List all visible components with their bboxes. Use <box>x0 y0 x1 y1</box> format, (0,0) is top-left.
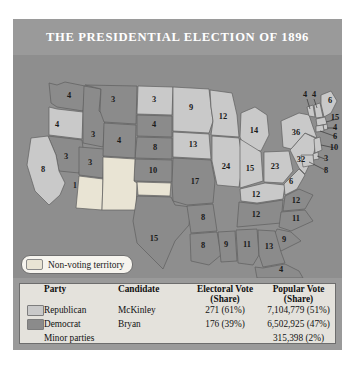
map-label-la: 8 <box>201 242 205 250</box>
row-swatch-minor <box>20 333 44 344</box>
map-label-ia: 13 <box>189 141 197 149</box>
header-electoral-vote: Electoral Vote (Share) <box>188 284 262 305</box>
map-label-fl: 4 <box>279 266 283 274</box>
map-label-me: 6 <box>328 97 332 105</box>
map-label-tn: 12 <box>252 211 260 219</box>
results-table: Party Candidate Electoral Vote (Share) P… <box>20 284 335 344</box>
header-party: Party <box>44 284 118 305</box>
row-popular-minor: 315,398 (2%) <box>262 333 335 344</box>
map-label-sd: 4 <box>152 121 156 129</box>
table-row: Republican McKinley 271 (61%) 7,104,779 … <box>20 305 335 319</box>
figure-title-bar: THE PRESIDENTIAL ELECTION OF 1896 <box>13 19 342 55</box>
republican-color-swatch <box>27 305 44 316</box>
map-label-ne: 8 <box>153 144 157 152</box>
map-label-nd: 3 <box>152 96 156 104</box>
map-label-ca: 8 <box>41 166 45 174</box>
map-label-sc: 9 <box>282 236 286 244</box>
results-table-head: Party Candidate Electoral Vote (Share) P… <box>20 284 335 305</box>
row-electoral-minor <box>188 333 262 344</box>
map-label-de: 3 <box>324 155 328 163</box>
map-label-mn: 9 <box>189 104 193 112</box>
row-party-republican: Republican <box>44 305 118 319</box>
map-label-ct: 6 <box>333 133 337 141</box>
map-label-ms: 9 <box>224 241 228 249</box>
map-label-mt: 3 <box>111 96 115 104</box>
map-label-il: 24 <box>222 163 230 171</box>
territory-ok <box>137 182 171 196</box>
row-electoral-republican: 271 (61%) <box>188 305 262 319</box>
map-label-al: 11 <box>243 241 251 249</box>
map-label-in: 15 <box>246 165 254 173</box>
map-label-id: 3 <box>91 131 95 139</box>
header-popular-line2: (Share) <box>262 294 335 304</box>
map-label-tx: 15 <box>150 235 158 243</box>
map-label-mi: 14 <box>250 127 258 135</box>
election-map-figure: THE PRESIDENTIAL ELECTION OF 1896 .s{str… <box>13 19 342 350</box>
map-label-wa: 4 <box>67 92 71 100</box>
map-label-ny: 36 <box>292 129 300 137</box>
map-label-ut: 3 <box>88 159 92 167</box>
map-label-ma: 15 <box>331 114 339 122</box>
header-candidate: Candidate <box>118 284 188 305</box>
header-popular-line1: Popular Vote <box>262 284 335 294</box>
header-electoral-line2: (Share) <box>188 294 262 304</box>
row-electoral-democrat: 176 (39%) <box>188 319 262 333</box>
map-label-co: 4 <box>117 137 121 145</box>
header-popular-vote: Popular Vote (Share) <box>262 284 335 305</box>
results-panel: Party Candidate Electoral Vote (Share) P… <box>19 283 336 344</box>
territory-nm <box>102 157 137 210</box>
map-label-wi: 12 <box>219 113 227 121</box>
results-table-body: Republican McKinley 271 (61%) 7,104,779 … <box>20 305 335 344</box>
header-electoral-line1: Electoral Vote <box>188 284 262 294</box>
map-svg: .s{stroke:#5f5f5f;stroke-width:.7;} .rep… <box>13 55 342 278</box>
us-electoral-map: .s{stroke:#5f5f5f;stroke-width:.7;} .rep… <box>13 55 342 278</box>
row-candidate-bryan: Bryan <box>118 319 188 333</box>
map-label-nj: 10 <box>330 144 338 152</box>
map-label-oh: 23 <box>271 163 279 171</box>
map-label-az: 1 <box>73 182 77 190</box>
row-party-minor: Minor parties <box>44 333 188 344</box>
page-title: THE PRESIDENTIAL ELECTION OF 1896 <box>46 30 309 45</box>
row-swatch-republican <box>20 305 44 319</box>
map-label-nh: 4 <box>312 91 316 99</box>
non-voting-territory-legend: Non-voting territory <box>21 255 133 274</box>
row-candidate-mckinley: McKinley <box>118 305 188 319</box>
map-label-or: 4 <box>55 121 59 129</box>
row-popular-democrat: 6,502,925 (47%) <box>262 319 335 333</box>
table-row: Democrat Bryan 176 (39%) 6,502,925 (47%) <box>20 319 335 333</box>
map-label-pa: 32 <box>297 156 305 164</box>
row-party-democrat: Democrat <box>44 319 118 333</box>
map-label-vt: 4 <box>303 91 307 99</box>
democrat-color-swatch <box>27 319 44 330</box>
map-label-wv: 6 <box>289 178 293 186</box>
row-popular-republican: 7,104,779 (51%) <box>262 305 335 319</box>
map-label-va: 12 <box>292 197 300 205</box>
table-row: Minor parties 315,398 (2%) <box>20 333 335 344</box>
map-label-ky: 12 <box>252 191 260 199</box>
header-swatch-spacer <box>20 284 44 305</box>
row-swatch-democrat <box>20 319 44 333</box>
non-voting-label: Non-voting territory <box>48 260 124 270</box>
map-label-mo: 17 <box>191 178 199 186</box>
map-label-nv: 3 <box>64 153 68 161</box>
territory-az <box>76 176 103 210</box>
table-header-row: Party Candidate Electoral Vote (Share) P… <box>20 284 335 305</box>
state-ct <box>316 125 324 132</box>
map-label-md: 8 <box>324 167 328 175</box>
non-voting-swatch <box>26 259 43 270</box>
map-label-nc: 11 <box>292 215 300 223</box>
map-label-ks: 10 <box>149 167 157 175</box>
map-label-ar: 8 <box>201 214 205 222</box>
map-label-ga: 13 <box>265 243 273 251</box>
